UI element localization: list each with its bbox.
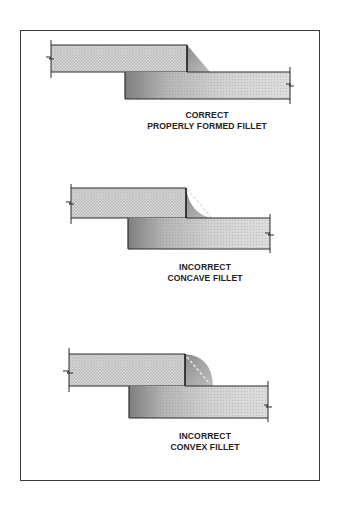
bottom-plate bbox=[128, 214, 274, 253]
figure-concave-label: INCORRECT CONCAVE FILLET bbox=[167, 262, 242, 283]
bottom-plate bbox=[125, 67, 294, 104]
label-line-1: INCORRECT bbox=[170, 431, 239, 442]
fillet-diagram bbox=[0, 0, 343, 505]
figure-convex bbox=[63, 348, 272, 422]
bottom-plate bbox=[129, 381, 272, 422]
figure-convex-label: INCORRECT CONVEX FILLET bbox=[170, 431, 239, 452]
label-line-2: PROPERLY FORMED FILLET bbox=[147, 121, 267, 132]
figure-correct-label: CORRECT PROPERLY FORMED FILLET bbox=[147, 110, 267, 131]
figure-correct bbox=[46, 40, 294, 104]
fillet-straight bbox=[187, 45, 210, 72]
label-line-1: CORRECT bbox=[147, 110, 267, 121]
top-plate bbox=[63, 348, 185, 392]
label-line-1: INCORRECT bbox=[167, 262, 242, 273]
figure-concave bbox=[66, 184, 274, 253]
label-line-2: CONVEX FILLET bbox=[170, 442, 239, 453]
label-line-2: CONCAVE FILLET bbox=[167, 273, 242, 284]
